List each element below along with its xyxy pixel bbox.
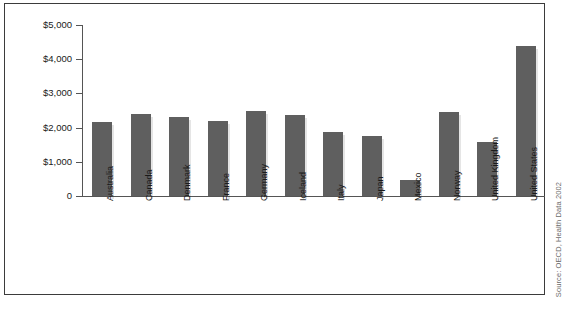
y-axis-tick — [76, 128, 83, 129]
y-axis-tick — [76, 59, 83, 60]
y-axis-tick — [76, 162, 83, 163]
y-axis-tick-label: $5,000 — [8, 20, 72, 30]
y-axis-line — [82, 25, 83, 197]
x-axis-category-label: Mexico — [414, 172, 423, 201]
x-axis-category-label: Australia — [106, 166, 115, 201]
chart-figure: $5,000$4,000$3,000$2,000$1,0000 Australi… — [0, 0, 569, 309]
y-axis-tick — [76, 93, 83, 94]
y-axis-tick — [76, 25, 83, 26]
x-axis-category-label: United States — [530, 147, 539, 201]
figure-caption — [6, 299, 556, 309]
source-note: Source: OECD, Health Data 2002 — [554, 182, 563, 297]
y-axis-tick-label: $4,000 — [8, 54, 72, 64]
y-axis-tick-label: $1,000 — [8, 157, 72, 167]
x-axis-category-label: Canada — [145, 169, 154, 201]
x-axis-category-label: Norway — [453, 170, 462, 201]
y-axis-tick-label: $3,000 — [8, 88, 72, 98]
x-axis-category-label: Italy — [337, 184, 346, 201]
x-axis-category-label: United Kingdom — [491, 137, 500, 201]
chart-panel: $5,000$4,000$3,000$2,000$1,0000 Australi… — [4, 3, 545, 295]
y-axis-tick-label: 0 — [8, 191, 72, 201]
y-axis-tick-label: $2,000 — [8, 123, 72, 133]
x-axis-category-label: Denmark — [183, 164, 192, 201]
y-axis-tick — [76, 196, 83, 197]
x-axis-category-label: Japan — [376, 176, 385, 201]
x-axis-category-label: France — [222, 173, 231, 201]
x-axis-category-label: Germany — [260, 164, 269, 201]
x-axis-category-label: Iceland — [299, 172, 308, 201]
